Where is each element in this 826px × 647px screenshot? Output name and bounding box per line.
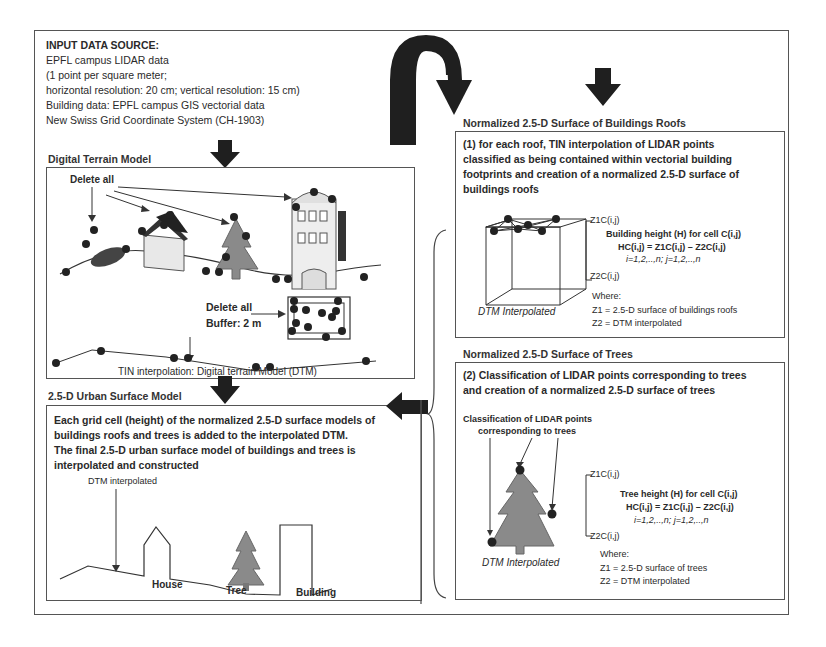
trees-z1-label: Z1C(i,j) [590,468,620,480]
roofs-description-line: classified as being contained within vec… [463,152,732,167]
roofs-description-line: buildings roofs [463,182,539,197]
roofs-section-title: Normalized 2.5-D Surface of Buildings Ro… [463,117,686,129]
urban-house-label: House [152,577,183,592]
roofs-description-line: (1) for each roof, TIN interpolation of … [463,137,714,152]
roofs-formula: HC(i,j) = Z1C(i,j) – Z2C(i,j) [618,241,726,253]
dtm-delete-all-label: Delete all [70,172,114,187]
input-source-line: (1 point per square meter; [46,68,167,83]
input-source-heading: INPUT DATA SOURCE: [46,38,159,53]
trees-where: Where: [600,548,629,560]
roofs-where: Where: [592,290,621,302]
trees-indices: i=1,2,..,n; j=1,2,..,n [634,514,709,526]
brace-icon [430,228,448,600]
trees-section-title: Normalized 2.5-D Surface of Trees [463,348,633,360]
trees-formula-title: Tree height (H) for cell C(i,j) [620,488,738,500]
roofs-indices: i=1,2,..,n; j=1,2,..,n [626,253,701,265]
input-source-line: horizontal resolution: 20 cm; vertical r… [46,83,300,98]
roofs-formula-title: Building height (H) for cell C(i,j) [606,228,741,240]
trees-classification-label: Classification of LIDAR points [463,413,592,425]
trees-formula: HC(i,j) = Z1C(i,j) – Z2C(i,j) [626,501,734,513]
trees-description-line: (2) Classification of LIDAR points corre… [463,368,747,383]
buffer-delete-all-label: Delete all [206,300,252,315]
tree-classification-illustration [470,436,590,566]
down-arrow-icon [208,376,242,406]
dtm-section-title: Digital Terrain Model [48,153,151,165]
roofs-z1-label: Z1C(i,j) [590,214,620,226]
trees-z2-definition: Z2 = DTM interpolated [600,575,690,587]
urban-section-title: 2.5-D Urban Surface Model [48,390,182,402]
roofs-description-line: footprints and creation of a normalized … [463,167,739,182]
trees-z2-label: Z2C(i,j) [590,530,620,542]
roofs-z1-definition: Z1 = 2.5-D surface of buildings roofs [592,304,737,316]
down-arrow-icon [583,68,623,110]
height-bracket [584,474,594,538]
dtm-scene-illustration [46,167,415,379]
buffer-distance-label: Buffer: 2 m [206,316,261,331]
trees-z1-definition: Z1 = 2.5-D surface of trees [600,562,707,574]
input-source-line: Building data: EPFL campus GIS vectorial… [46,98,264,113]
connector-line [420,400,422,604]
roofs-z2-label: Z2C(i,j) [590,270,620,282]
urban-building-label: Building [296,585,336,600]
roofs-z2-definition: Z2 = DTM interpolated [592,317,682,329]
trees-dtm-caption: DTM Interpolated [482,557,559,569]
trees-description-line: and creation of a normalized 2.5-D surfa… [463,383,715,398]
input-source-line: New Swiss Grid Coordinate System (CH-190… [46,113,264,128]
down-arrow-icon [208,140,242,170]
left-arrow-icon [386,392,432,422]
roofs-dtm-caption: DTM Interpolated [478,306,555,318]
urban-tree-label: Tree [226,583,247,598]
input-source-line: EPFL campus LIDAR data [46,53,169,68]
urban-profile-illustration [46,405,422,601]
